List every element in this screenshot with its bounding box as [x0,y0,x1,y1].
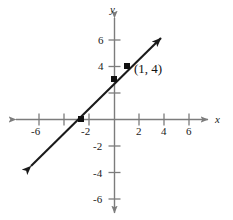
x-tick-label-neg2: -2 [81,126,90,137]
x-tick-label-pos6: 6 [186,126,192,137]
coordinate-plane-figure: -6 -2 2 4 6 6 4 -2 -4 -6 y x (1, 4) [0,0,233,220]
y-tick-label-pos4: 4 [98,61,104,72]
point-x-intercept [78,116,84,122]
y-tick-label-neg4: -4 [93,168,102,179]
point-1-4 [124,63,130,69]
point-label-1-4: (1, 4) [134,62,162,75]
x-tick-label-pos4: 4 [161,126,167,137]
graph-canvas [0,0,233,220]
x-axis-label: x [215,114,220,125]
point-y-intercept [111,76,117,82]
y-axis [109,18,121,213]
y-tick-label-neg6: -6 [93,194,102,205]
y-tick-label-pos6: 6 [98,35,104,46]
y-axis-label: y [110,4,115,15]
x-tick-label-neg6: -6 [31,126,40,137]
y-tick-label-neg2: -2 [93,141,102,152]
x-tick-label-pos2: 2 [136,126,142,137]
x-axis [16,114,208,126]
